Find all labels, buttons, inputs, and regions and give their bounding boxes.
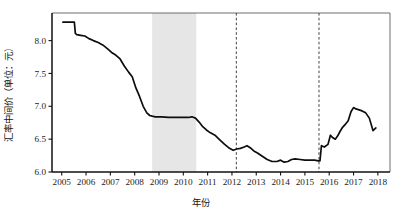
x-tick-label: 2013 xyxy=(247,177,266,187)
chart-figure: 6.06.57.07.58.0 200520062007200820092010… xyxy=(0,0,402,215)
x-tick-label: 2008 xyxy=(125,177,144,187)
x-tick-label: 2017 xyxy=(344,177,363,187)
peg-period-band xyxy=(152,13,196,172)
exchange-rate-line-chart: 6.06.57.07.58.0 200520062007200820092010… xyxy=(0,0,402,215)
shaded-band-layer xyxy=(152,13,196,172)
x-tick-label: 2015 xyxy=(296,177,315,187)
y-tick-label: 6.5 xyxy=(35,134,47,144)
y-tick-label: 8.0 xyxy=(35,36,47,46)
x-tick-label: 2011 xyxy=(199,177,217,187)
x-tick-label: 2012 xyxy=(223,177,242,187)
y-tick-label: 7.0 xyxy=(35,101,47,111)
x-tick-label: 2005 xyxy=(53,177,72,187)
x-tick-label: 2006 xyxy=(77,177,96,187)
x-tick-label: 2014 xyxy=(271,177,290,187)
x-tick-label: 2007 xyxy=(101,177,120,187)
y-axis-title: 汇率中间价（单位：元） xyxy=(3,43,14,142)
y-tick-label: 6.0 xyxy=(35,167,47,177)
x-tick-label: 2018 xyxy=(369,177,388,187)
x-tick-label: 2010 xyxy=(174,177,193,187)
x-axis-title: 年份 xyxy=(192,197,211,208)
x-tick-label: 2016 xyxy=(320,177,339,187)
x-tick-label: 2009 xyxy=(150,177,169,187)
y-tick-label: 7.5 xyxy=(35,69,47,79)
